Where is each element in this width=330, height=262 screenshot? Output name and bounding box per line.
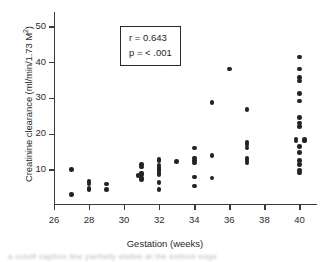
data-point: [297, 162, 302, 167]
y-axis-line: [54, 12, 55, 205]
data-point: [297, 150, 302, 155]
data-point: [210, 100, 215, 105]
data-point: [174, 159, 179, 164]
x-axis-tick-label: 26: [45, 214, 63, 225]
data-point: [139, 165, 144, 170]
x-axis-tick: 38: [264, 205, 265, 210]
data-point: [192, 146, 197, 151]
y-axis-title-text: Creatinine clearance (ml/min/1.73 M: [23, 33, 34, 182]
x-axis-title: Gestation (weeks): [0, 238, 330, 249]
data-point: [192, 184, 197, 189]
x-axis-tick: 34: [194, 205, 195, 210]
plot-area: 1020304050 2628303234363840 r = 0.643 p …: [54, 12, 317, 205]
x-axis-tick: 40: [299, 205, 300, 210]
y-axis-tick-label: 50: [35, 20, 46, 31]
data-point: [297, 144, 302, 149]
data-point: [294, 139, 299, 144]
caption-fragment: a cutoff caption line partially visible …: [8, 252, 326, 261]
x-axis-tick-label: 30: [115, 214, 133, 225]
data-point: [297, 124, 302, 129]
y-axis-tick-label: 40: [35, 56, 46, 67]
data-point: [297, 99, 302, 104]
x-axis-line: [54, 204, 317, 205]
data-point: [245, 107, 250, 112]
correlation-coefficient-label: r = 0.643: [129, 31, 172, 46]
x-axis-tick-label: 36: [220, 214, 238, 225]
p-value-label: p = < .001: [129, 46, 172, 61]
y-axis-tick: 40: [49, 62, 54, 63]
x-axis-tick-label: 40: [290, 214, 308, 225]
data-point: [227, 67, 232, 72]
data-point: [192, 161, 197, 166]
data-point: [297, 91, 302, 96]
y-axis-tick-label: 20: [35, 127, 46, 138]
data-point: [69, 192, 74, 197]
data-point: [157, 187, 162, 192]
x-axis-tick-label: 32: [150, 214, 168, 225]
y-axis-title-exponent: 2: [22, 29, 29, 33]
x-axis-tick: 32: [159, 205, 160, 210]
data-point: [302, 139, 307, 144]
data-point: [104, 187, 109, 192]
x-axis-tick-label: 34: [185, 214, 203, 225]
y-axis-tick: 30: [49, 98, 54, 99]
data-point: [245, 146, 250, 151]
data-point: [104, 182, 109, 187]
data-point: [87, 188, 92, 193]
y-axis-tick: 10: [49, 169, 54, 170]
data-point: [297, 67, 302, 72]
y-axis-title-close-paren: ): [23, 26, 34, 29]
statistics-annotation-box: r = 0.643 p = < .001: [120, 26, 181, 66]
y-axis-tick: 50: [49, 26, 54, 27]
data-point: [245, 161, 250, 166]
data-point: [69, 167, 74, 172]
data-point: [297, 79, 302, 84]
data-point: [157, 180, 162, 185]
x-axis-tick-label: 38: [255, 214, 273, 225]
data-point: [297, 115, 302, 120]
data-point: [297, 55, 302, 60]
y-axis-tick-label: 30: [35, 91, 46, 102]
x-axis-tick: 36: [229, 205, 230, 210]
data-point: [297, 171, 302, 176]
y-axis-tick-label: 10: [35, 163, 46, 174]
x-axis-tick: 30: [124, 205, 125, 210]
data-point: [192, 175, 197, 180]
x-axis-tick-label: 28: [80, 214, 98, 225]
data-point: [210, 153, 215, 158]
x-axis-tick: 26: [54, 205, 55, 210]
y-axis-title: Creatinine clearance (ml/min/1.73 M2): [22, 4, 34, 204]
x-axis-tick: 28: [89, 205, 90, 210]
scatter-plot-figure: Creatinine clearance (ml/min/1.73 M2) 10…: [0, 0, 330, 262]
data-point: [210, 176, 215, 181]
data-point: [139, 177, 144, 182]
y-axis-tick: 20: [49, 134, 54, 135]
data-point: [157, 172, 162, 177]
